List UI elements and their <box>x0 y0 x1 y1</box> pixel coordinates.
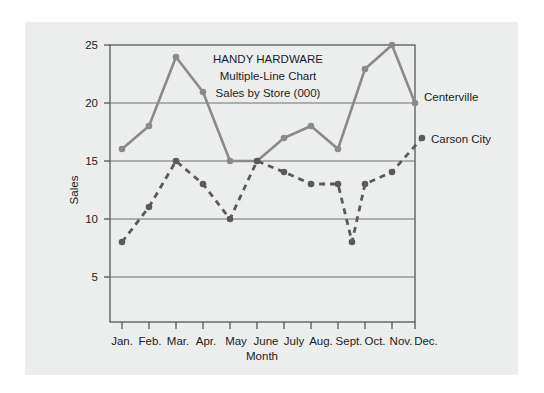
x-axis-title: Month <box>246 350 278 362</box>
x-tick-label-nov: Nov. <box>390 335 413 347</box>
carson-city-point-dec <box>419 135 426 142</box>
x-axis-tick-labels: Jan. Feb. Mar. Apr. May June July Aug. S… <box>111 335 438 347</box>
centerville-point-jan <box>119 146 126 153</box>
series-carson-city <box>119 135 426 246</box>
carson-city-point-mar <box>173 158 180 165</box>
carson-city-point-nov <box>389 169 396 176</box>
carson-city-point-may <box>227 216 234 223</box>
centerville-point-apr <box>200 89 207 96</box>
x-tick-label-july: July <box>284 335 305 347</box>
centerville-point-feb <box>146 123 153 130</box>
multiple-line-chart: 25 20 15 10 5 Sales Jan. Feb. Ma <box>0 0 544 393</box>
centerville-point-sept <box>335 146 342 153</box>
series-label-carson-city: Carson City <box>431 133 491 145</box>
carson-city-point-june <box>254 158 261 165</box>
carson-city-point-jan <box>119 239 126 246</box>
centerville-point-may <box>227 158 234 165</box>
centerville-point-aug <box>308 123 315 130</box>
x-tick-label-june: June <box>254 335 279 347</box>
x-axis-ticks <box>122 322 415 329</box>
centerville-point-dec <box>412 100 419 107</box>
y-tick-label-20: 20 <box>85 97 98 109</box>
y-axis-title: Sales <box>68 175 80 204</box>
x-tick-label-oct: Oct. <box>364 335 385 347</box>
x-tick-label-dec: Dec. <box>414 335 438 347</box>
series-label-centerville: Centerville <box>424 91 478 103</box>
centerville-point-july <box>281 135 288 142</box>
carson-city-point-apr <box>200 181 207 188</box>
y-tick-label-15: 15 <box>85 155 98 167</box>
centerville-point-oct <box>362 66 369 73</box>
chart-title-line-2: Multiple-Line Chart <box>220 70 317 82</box>
y-axis-tick-labels: 25 20 15 10 5 <box>85 39 98 283</box>
x-tick-label-mar: Mar. <box>167 335 189 347</box>
carson-city-point-oct <box>362 181 369 188</box>
carson-city-markers <box>119 135 426 246</box>
chart-title-line-3: Sales by Store (000) <box>216 87 321 99</box>
x-tick-label-feb: Feb. <box>138 335 161 347</box>
y-tick-label-10: 10 <box>85 213 98 225</box>
chart-title-block: HANDY HARDWARE Multiple-Line Chart Sales… <box>213 53 323 99</box>
x-tick-label-jan: Jan. <box>111 335 133 347</box>
chart-figure: 25 20 15 10 5 Sales Jan. Feb. Ma <box>0 0 544 393</box>
gridlines <box>110 103 415 277</box>
x-tick-label-sept: Sept. <box>336 335 363 347</box>
carson-city-point-july <box>281 169 288 176</box>
x-tick-label-aug: Aug. <box>309 335 333 347</box>
carson-city-point-feb <box>146 204 153 211</box>
carson-city-point-sept <box>335 181 342 188</box>
chart-title-line-1: HANDY HARDWARE <box>213 53 323 65</box>
centerville-point-nov <box>389 42 396 49</box>
y-tick-label-5: 5 <box>92 271 98 283</box>
carson-city-point-sept-low <box>349 239 356 246</box>
carson-city-point-aug <box>308 181 315 188</box>
centerville-point-mar <box>173 54 180 61</box>
carson-city-line <box>122 138 422 242</box>
y-axis-ticks <box>104 45 110 277</box>
x-tick-label-apr: Apr. <box>196 335 216 347</box>
y-tick-label-25: 25 <box>85 39 98 51</box>
x-tick-label-may: May <box>225 335 247 347</box>
